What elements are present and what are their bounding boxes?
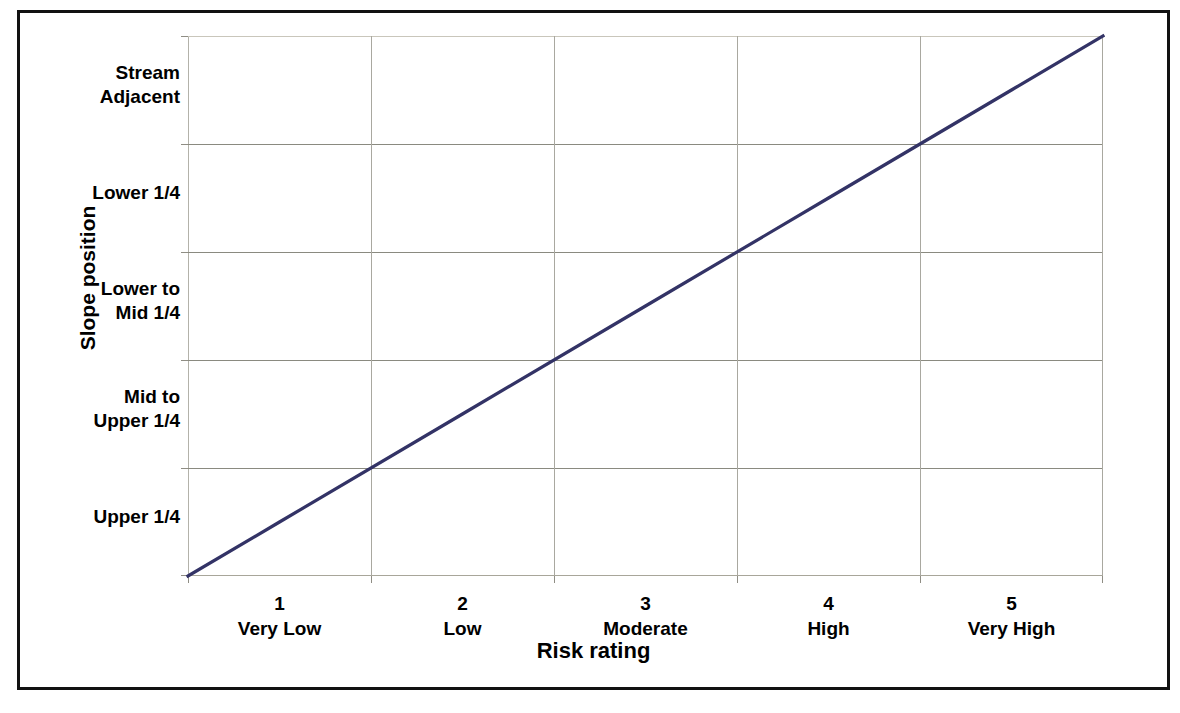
y-tick-line-1: Stream <box>116 62 180 83</box>
y-axis-tick-2 <box>181 360 188 361</box>
y-tick-line-2: Adjacent <box>100 86 180 107</box>
y-axis-tick-3 <box>181 252 188 253</box>
x-tick-number: 5 <box>920 591 1103 616</box>
y-axis-tick-5 <box>181 36 188 37</box>
plot-area <box>188 36 1103 576</box>
figure-frame: Slope position Stream Adjacent Lower 1/4… <box>17 10 1170 690</box>
y-tick-line-2: Mid 1/4 <box>116 302 180 323</box>
x-axis-tick-1 <box>371 576 372 583</box>
x-tick-label-moderate: 3 Moderate <box>554 591 737 641</box>
y-tick-label-stream-adjacent: Stream Adjacent <box>30 61 180 109</box>
x-axis-tick-3 <box>737 576 738 583</box>
x-axis-tick-5 <box>1102 576 1103 583</box>
x-tick-label-very-high: 5 Very High <box>920 591 1103 641</box>
series-line-risk-vs-slope <box>188 36 1103 576</box>
y-tick-label-upper-quarter: Upper 1/4 <box>30 505 180 529</box>
x-axis-tick-2 <box>554 576 555 583</box>
y-tick-line-1: Lower 1/4 <box>92 182 180 203</box>
x-axis-tick-4 <box>920 576 921 583</box>
y-tick-line-1: Upper 1/4 <box>93 506 180 527</box>
y-tick-line-1: Mid to <box>124 386 180 407</box>
x-tick-number: 1 <box>188 591 371 616</box>
x-tick-number: 4 <box>737 591 920 616</box>
series-line-chart <box>188 36 1103 576</box>
y-tick-line-2: Upper 1/4 <box>93 410 180 431</box>
x-tick-number: 3 <box>554 591 737 616</box>
y-tick-label-mid-to-upper-quarter: Mid to Upper 1/4 <box>30 385 180 433</box>
y-axis-tick-4 <box>181 144 188 145</box>
x-tick-label-low: 2 Low <box>371 591 554 641</box>
y-tick-line-1: Lower to <box>101 278 180 299</box>
x-tick-number: 2 <box>371 591 554 616</box>
x-axis-title: Risk rating <box>20 638 1167 664</box>
y-axis-tick-1 <box>181 468 188 469</box>
y-tick-label-lower-quarter: Lower 1/4 <box>30 181 180 205</box>
x-tick-label-high: 4 High <box>737 591 920 641</box>
y-tick-label-lower-to-mid-quarter: Lower to Mid 1/4 <box>30 277 180 325</box>
x-tick-label-very-low: 1 Very Low <box>188 591 371 641</box>
